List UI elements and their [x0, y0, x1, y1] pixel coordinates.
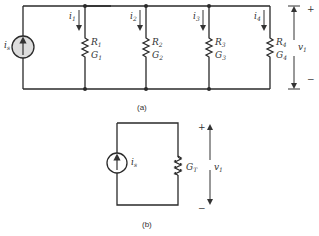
junction-dot — [207, 4, 211, 8]
current-source-b — [107, 153, 127, 173]
voltage-label-b: v1 — [214, 162, 223, 173]
source-label-a: is — [4, 40, 10, 51]
branch-4: i4R4G4 — [254, 6, 287, 89]
voltage-label-a: v1 — [298, 42, 307, 53]
junction-dot — [83, 4, 87, 8]
junction-dot — [83, 87, 87, 91]
conductance-label: G4 — [276, 50, 287, 61]
branch-wire — [267, 6, 273, 89]
minus-sign-a: − — [307, 74, 315, 84]
resistance-label: R2 — [151, 37, 163, 48]
branch-2: i2R2G2 — [130, 4, 163, 91]
circuit-diagram: is i1R1G1i2R2G2i3R3G3i4R4G4 + − v1 (a) i… — [0, 0, 319, 236]
resistance-label: R3 — [214, 37, 226, 48]
current-label: i1 — [69, 11, 76, 22]
current-label: i3 — [193, 11, 200, 22]
current-source-a — [12, 36, 34, 58]
branch-wire — [206, 6, 212, 89]
branch-3: i3R3G3 — [193, 4, 226, 91]
junction-dot — [144, 87, 148, 91]
minus-sign-b: − — [198, 203, 206, 213]
plus-sign-a: + — [307, 4, 315, 14]
conductance-label: G3 — [215, 50, 226, 61]
current-label: i2 — [130, 11, 137, 22]
conductance-label: G1 — [91, 50, 102, 61]
caption-b: (b) — [142, 220, 152, 229]
conductance-label-b: GT — [186, 162, 198, 173]
junction-dot — [207, 87, 211, 91]
conductance-label: G2 — [152, 50, 163, 61]
resistance-label: R1 — [90, 37, 102, 48]
plus-sign-b: + — [198, 122, 206, 132]
resistance-label: R4 — [275, 37, 287, 48]
circuit-a: is i1R1G1i2R2G2i3R3G3i4R4G4 + − v1 (a) — [4, 4, 315, 112]
current-label: i4 — [254, 11, 261, 22]
branch-wire — [82, 6, 88, 89]
circuit-b: is GT + − v1 (b) — [107, 122, 223, 229]
branch-wire — [143, 6, 149, 89]
caption-a: (a) — [137, 103, 147, 112]
source-label-b: is — [131, 157, 137, 168]
junction-dot — [144, 4, 148, 8]
branch-1: i1R1G1 — [69, 4, 102, 91]
